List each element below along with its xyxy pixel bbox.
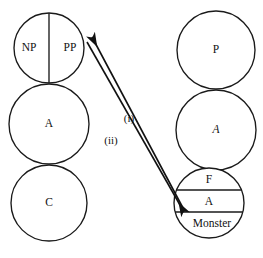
left-node-np-pp[interactable]: NP PP bbox=[14, 13, 84, 83]
diagram-canvas: NP PP A C P A bbox=[0, 0, 263, 258]
band-label-monster: Monster bbox=[193, 217, 232, 229]
left-middle-label: A bbox=[45, 117, 54, 129]
right-node-p[interactable]: P bbox=[177, 11, 255, 89]
diagram-svg: NP PP A C P A bbox=[0, 0, 263, 258]
left-node-c[interactable]: C bbox=[11, 165, 87, 241]
edge-label-i: (i) bbox=[124, 112, 135, 125]
band-label-a: A bbox=[205, 195, 214, 207]
left-tree: NP PP A C bbox=[9, 13, 89, 241]
left-top-label-np: NP bbox=[22, 41, 37, 53]
left-bottom-label: C bbox=[45, 196, 53, 208]
edge-label-ii: (ii) bbox=[104, 134, 118, 147]
band-label-f: F bbox=[206, 173, 212, 185]
edge-line-ii[interactable] bbox=[87, 42, 184, 212]
right-middle-label: A bbox=[211, 123, 220, 135]
right-node-a[interactable]: A bbox=[176, 90, 256, 170]
edge-line-i[interactable] bbox=[92, 37, 183, 208]
right-tree: P A F A Monster bbox=[170, 11, 256, 238]
left-node-a[interactable]: A bbox=[9, 84, 89, 164]
edges: (i) (ii) bbox=[87, 37, 184, 212]
left-top-label-pp: PP bbox=[64, 41, 77, 53]
right-top-label: P bbox=[213, 43, 219, 55]
right-node-banded[interactable]: F A Monster bbox=[170, 168, 250, 238]
